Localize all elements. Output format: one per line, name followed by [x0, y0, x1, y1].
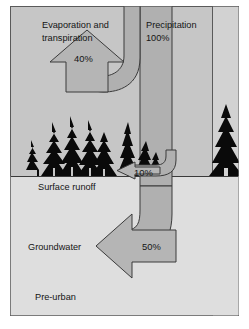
precipitation-value: 100% — [146, 33, 170, 43]
pre-urban-water-balance-diagram: Evaporation and transpiration Precipitat… — [0, 0, 249, 329]
evapotranspiration-value: 40% — [74, 53, 93, 64]
evaporation-label-line1: Evaporation and — [42, 20, 109, 30]
precipitation-label: Precipitation — [146, 20, 197, 30]
groundwater-value: 50% — [142, 241, 161, 252]
diagram-canvas: Evaporation and transpiration Precipitat… — [0, 0, 249, 329]
evaporation-label-line2: transpiration — [42, 33, 93, 43]
surface-runoff-value: 10% — [134, 167, 153, 178]
groundwater-label: Groundwater — [28, 242, 81, 252]
scenario-label: Pre-urban — [35, 292, 76, 302]
surface-runoff-label: Surface runoff — [38, 182, 96, 192]
